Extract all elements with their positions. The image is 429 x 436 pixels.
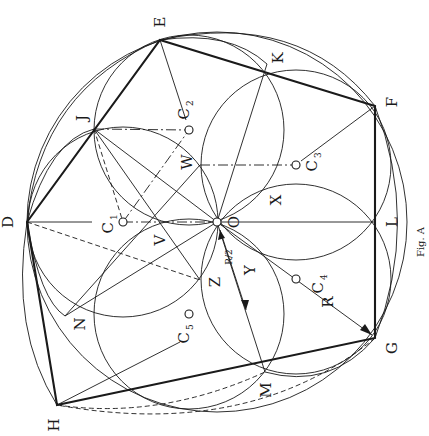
label-z: Z [206, 277, 224, 287]
label-h: H [45, 418, 63, 431]
svg-text:4: 4 [319, 274, 329, 280]
label-l: L [383, 217, 401, 227]
svg-text:C: C [99, 222, 117, 233]
label-c2: C 2 [175, 100, 195, 119]
center-c3-node [292, 161, 300, 169]
line-k-o [217, 64, 267, 222]
label-j: J [73, 115, 91, 123]
center-c5-node [185, 310, 193, 318]
label-c5: C 5 [175, 324, 195, 343]
line-c1-c2 [123, 130, 189, 222]
line-j-c1 [94, 129, 123, 222]
svg-text:1: 1 [109, 214, 119, 220]
label-g: G [383, 342, 401, 354]
line-h-c5 [57, 342, 180, 405]
label-c1: C 1 [99, 214, 119, 233]
label-v: V [151, 233, 169, 246]
arc-m-inner [57, 372, 265, 409]
line-j-o [94, 129, 217, 222]
line-e-c2 [160, 40, 186, 120]
center-c4-node [292, 275, 300, 283]
line-n-w [65, 165, 200, 316]
svg-text:3: 3 [313, 152, 323, 158]
line-m-o [217, 222, 265, 372]
line-n-o [65, 222, 217, 316]
svg-text:C: C [175, 332, 193, 343]
label-half-radius: R/2 [224, 249, 234, 265]
label-d: D [0, 216, 17, 228]
label-y: Y [241, 264, 259, 276]
center-c1-node [119, 218, 127, 226]
svg-text:5: 5 [185, 324, 195, 330]
label-e: E [151, 17, 169, 28]
arc-g-h [57, 338, 375, 414]
center-c2-node [185, 126, 193, 134]
line-j-z [94, 129, 200, 280]
label-radius: R [319, 296, 337, 308]
label-c3: C 3 [303, 152, 323, 171]
svg-text:C: C [175, 108, 193, 119]
svg-text:C: C [303, 160, 321, 171]
label-m: M [257, 382, 275, 397]
figure-caption: Fig. A [415, 226, 426, 257]
label-n: N [71, 317, 89, 330]
label-x: X [267, 194, 285, 205]
label-k: K [269, 52, 287, 64]
label-c4: C 4 [309, 274, 329, 293]
arc-k-inner [160, 38, 267, 64]
svg-text:2: 2 [185, 100, 195, 106]
svg-text:C: C [309, 282, 327, 293]
center-o-node [213, 218, 221, 226]
label-o: O [225, 216, 243, 228]
pentagon-construction-diagram: D E F G H J K L M N O C 1 C 2 C 3 C 4 C … [0, 0, 429, 436]
label-f: F [383, 97, 401, 107]
label-w: W [178, 154, 196, 170]
radius-arrowhead [360, 324, 372, 335]
